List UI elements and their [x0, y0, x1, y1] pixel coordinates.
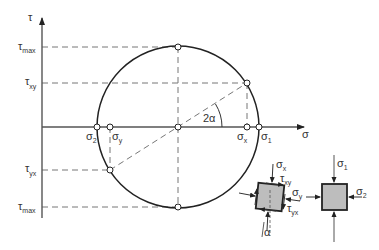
- point-tau-max-top: [175, 44, 181, 50]
- tau-max-bottom-label: τmax: [18, 200, 36, 214]
- element-sigma-x-label: σx: [276, 158, 287, 172]
- point-sigma-x: [244, 124, 250, 130]
- sigma-2-label: σ2: [86, 130, 97, 144]
- sigma-y-label: σy: [112, 130, 123, 145]
- angle-2alpha-label: 2α: [203, 112, 216, 124]
- point-yx: [107, 167, 113, 173]
- rotated-stress-element: σx τxy σy τyx α: [239, 158, 303, 238]
- point-tau-max-bottom: [175, 204, 181, 210]
- point-sigma-2: [94, 124, 100, 130]
- tau-yx-label: τyx: [25, 162, 37, 178]
- angle-arc: [216, 104, 223, 127]
- sigma-x-label: σx: [237, 130, 248, 144]
- left-normal-arrow: [239, 193, 255, 196]
- element-alpha-label: α: [264, 226, 271, 238]
- principal-element-square: [322, 184, 347, 210]
- mohr-circle-diagram: τ σ τmax τxy τyx τmax σ2 σy σx σ1 2α σx …: [0, 0, 379, 250]
- sigma-axis-label: σ: [302, 128, 309, 140]
- sigma-x-arrow: [272, 164, 273, 182]
- tau-axis-label: τ: [28, 11, 33, 23]
- point-center: [175, 124, 181, 130]
- element-sigma-y-label: σy: [292, 186, 303, 201]
- principal-sigma-2-label: σ2: [356, 185, 367, 199]
- tau-max-top-label: τmax: [18, 40, 36, 54]
- principal-sigma-1-label: σ1: [337, 157, 348, 171]
- element-tau-yx-label: τyx: [287, 202, 299, 217]
- point-xy: [244, 80, 250, 86]
- sigma-1-label: σ1: [261, 130, 272, 144]
- principal-stress-element: σ1 σ2: [306, 155, 367, 242]
- tau-xy-label: τxy: [25, 75, 37, 91]
